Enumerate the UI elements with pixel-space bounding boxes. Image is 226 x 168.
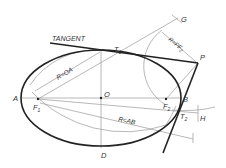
line-f1-g <box>38 18 178 99</box>
label-o: O <box>104 90 110 99</box>
label-r-pf2: R=PF2 <box>166 36 185 54</box>
label-a: A <box>12 94 18 103</box>
label-f1: F1 <box>33 103 41 113</box>
label-p: P <box>200 53 205 62</box>
label-r-ab: R=AB <box>118 115 137 126</box>
line-f2-p <box>166 63 198 99</box>
point-f1 <box>37 98 39 100</box>
label-r-oa: R=OA <box>55 66 74 81</box>
construction-lines <box>22 15 215 148</box>
label-t2: T2 <box>180 112 188 122</box>
label-h: H <box>200 114 206 123</box>
ellipse-tangent-diagram: TANGENT T1 G R=PF2 P R=OA O A F1 B F2 T2… <box>0 0 226 168</box>
points <box>37 97 167 100</box>
diagram-svg: TANGENT T1 G R=PF2 P R=OA O A F1 B F2 T2… <box>0 0 226 168</box>
point-f2 <box>165 98 167 100</box>
label-f2: F2 <box>163 102 171 112</box>
label-t1: T1 <box>114 45 122 55</box>
point-o <box>100 97 102 99</box>
label-g: G <box>181 15 187 24</box>
label-b: B <box>183 95 188 104</box>
label-tangent: TANGENT <box>52 35 86 42</box>
label-d: D <box>101 151 107 160</box>
